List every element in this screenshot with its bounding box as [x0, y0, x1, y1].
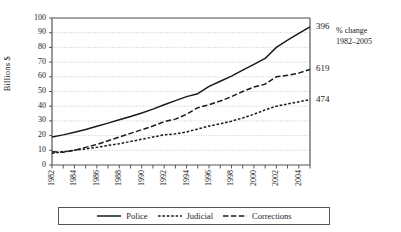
chart-legend: PoliceJudicialCorrections: [58, 207, 330, 225]
legend-item-corrections: Corrections: [222, 211, 292, 221]
x-tick-label: 1990: [137, 170, 147, 186]
legend-label: Corrections: [252, 211, 292, 221]
y-tick-label: 70: [24, 57, 46, 66]
y-tick-label: 40: [24, 101, 46, 110]
legend-swatch-judicial-icon: [157, 212, 183, 220]
y-tick-label: 10: [24, 145, 46, 154]
y-tick-label: 100: [24, 13, 46, 22]
series-line-police: [52, 27, 310, 137]
legend-swatch-police-icon: [96, 212, 122, 220]
x-tick-label: 1984: [69, 170, 79, 186]
x-tick-label: 2002: [271, 170, 281, 186]
y-tick-label: 0: [24, 160, 46, 169]
y-tick-label: 30: [24, 115, 46, 124]
legend-label: Judicial: [187, 211, 213, 221]
percent-change-caption: % change 1982–2005: [336, 26, 372, 47]
series-line-judicial: [52, 100, 310, 154]
percent-change-caption-line1: % change: [336, 26, 372, 37]
series-line-corrections: [52, 69, 310, 152]
legend-item-police: Police: [96, 211, 147, 221]
y-tick-label: 20: [24, 130, 46, 139]
right-annotation-corrections: 619: [316, 63, 330, 73]
y-tick-label: 50: [24, 86, 46, 95]
x-tick-label: 2000: [249, 170, 259, 186]
x-tick-label: 1998: [226, 170, 236, 186]
legend-item-judicial: Judicial: [157, 211, 213, 221]
x-tick-label: 1994: [182, 170, 192, 186]
percent-change-caption-line2: 1982–2005: [336, 37, 372, 48]
legend-label: Police: [126, 211, 147, 221]
right-annotation-judicial: 474: [316, 94, 330, 104]
x-tick-label: 1986: [92, 170, 102, 186]
y-tick-label: 60: [24, 71, 46, 80]
x-tick-label: 1996: [204, 170, 214, 186]
y-tick-label: 90: [24, 27, 46, 36]
y-axis-label: Billions $: [2, 56, 16, 91]
chart-figure: Billions $ 1009080706050403020100 198219…: [0, 0, 401, 232]
y-tick-label: 80: [24, 42, 46, 51]
legend-swatch-corrections-icon: [222, 212, 248, 220]
right-annotation-police: 396: [316, 21, 330, 31]
x-tick-label: 1992: [159, 170, 169, 186]
x-tick-label: 2004: [294, 170, 304, 186]
x-tick-label: 1982: [47, 170, 57, 186]
x-tick-label: 1988: [114, 170, 124, 186]
